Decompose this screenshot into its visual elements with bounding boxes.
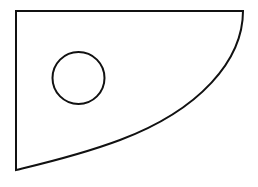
circular-hole [53,52,105,104]
diagram-canvas [0,0,258,187]
geometric-diagram [0,0,258,187]
outer-plate-shape [16,11,243,170]
